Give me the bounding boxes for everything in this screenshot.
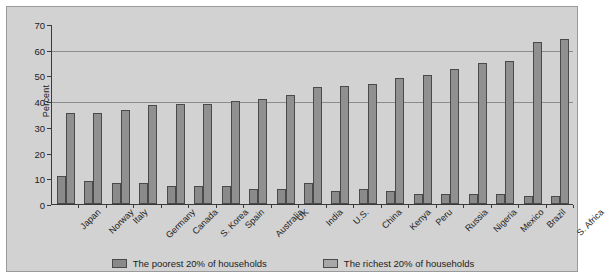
bar-richest[interactable] — [176, 104, 185, 204]
chart-legend: The poorest 20% of households The riches… — [7, 255, 579, 271]
bar-poorest[interactable] — [194, 186, 203, 204]
bar-group[interactable] — [276, 25, 294, 204]
x-label-italy: Italy — [131, 207, 150, 226]
bar-group[interactable] — [221, 25, 239, 204]
bar-richest[interactable] — [340, 86, 349, 204]
y-tick-label: 10 — [34, 174, 45, 185]
y-tick-mark — [47, 205, 51, 206]
x-label-norway: Norway — [107, 207, 136, 236]
bar-poorest[interactable] — [331, 191, 340, 204]
y-tick-label: 30 — [34, 122, 45, 133]
bar-poorest[interactable] — [551, 196, 560, 204]
plot-area: 010203040506070 — [51, 25, 573, 205]
x-label-brazil: Brazil — [544, 207, 567, 230]
legend-item-poorest: The poorest 20% of households — [112, 258, 267, 269]
bar-group[interactable] — [56, 25, 74, 204]
bar-poorest[interactable] — [414, 194, 423, 204]
legend-label-richest: The richest 20% of households — [344, 258, 474, 269]
bar-poorest[interactable] — [496, 194, 505, 204]
bar-richest[interactable] — [93, 113, 102, 204]
bar-poorest[interactable] — [139, 183, 148, 204]
bar-richest[interactable] — [533, 42, 542, 204]
bar-richest[interactable] — [121, 110, 130, 204]
bar-group[interactable] — [523, 25, 541, 204]
bar-poorest[interactable] — [167, 186, 176, 204]
y-tick-label: 0 — [40, 200, 45, 211]
bar-group[interactable] — [385, 25, 403, 204]
bar-richest[interactable] — [505, 61, 514, 204]
bar-group[interactable] — [358, 25, 376, 204]
x-label-peru: Peru — [434, 207, 455, 228]
bar-group[interactable] — [330, 25, 348, 204]
bar-group[interactable] — [248, 25, 266, 204]
x-tick-mark — [573, 205, 574, 208]
bar-poorest[interactable] — [359, 189, 368, 204]
legend-item-richest: The richest 20% of households — [323, 258, 474, 269]
y-tick-label: 60 — [34, 45, 45, 56]
x-label-mexico: Mexico — [519, 207, 546, 234]
bar-richest[interactable] — [478, 63, 487, 204]
x-label-s-africa: S. Africa — [575, 207, 606, 238]
x-axis-line — [51, 204, 573, 205]
x-label-nigeria: Nigeria — [491, 207, 518, 234]
bar-group[interactable] — [468, 25, 486, 204]
y-tick-label: 50 — [34, 71, 45, 82]
x-label-china: China — [380, 207, 404, 231]
bar-richest[interactable] — [368, 84, 377, 204]
bar-poorest[interactable] — [277, 189, 286, 204]
bar-richest[interactable] — [203, 104, 212, 204]
bar-group[interactable] — [138, 25, 156, 204]
bar-poorest[interactable] — [304, 183, 313, 204]
poorest-swatch-icon — [112, 259, 127, 268]
legend-label-poorest: The poorest 20% of households — [133, 258, 267, 269]
y-tick-label: 40 — [34, 97, 45, 108]
bar-poorest[interactable] — [84, 181, 93, 204]
bar-group[interactable] — [166, 25, 184, 204]
bar-richest[interactable] — [258, 99, 267, 204]
bar-poorest[interactable] — [57, 176, 66, 204]
bar-group[interactable] — [550, 25, 568, 204]
bar-richest[interactable] — [560, 39, 569, 204]
bar-poorest[interactable] — [112, 183, 121, 204]
bar-poorest[interactable] — [524, 196, 533, 204]
bar-poorest[interactable] — [249, 189, 258, 204]
bar-poorest[interactable] — [441, 194, 450, 204]
bars-layer — [51, 25, 573, 205]
bar-richest[interactable] — [286, 95, 295, 204]
x-label-u-s: U.S. — [351, 207, 370, 226]
bar-poorest[interactable] — [222, 186, 231, 204]
bar-richest[interactable] — [395, 78, 404, 204]
bar-poorest[interactable] — [386, 191, 395, 204]
bar-richest[interactable] — [66, 113, 75, 204]
bar-poorest[interactable] — [469, 194, 478, 204]
bar-group[interactable] — [83, 25, 101, 204]
bar-group[interactable] — [413, 25, 431, 204]
x-label-japan: Japan — [78, 207, 102, 231]
bar-group[interactable] — [495, 25, 513, 204]
y-axis-line — [51, 25, 52, 205]
x-label-india: India — [324, 207, 345, 228]
bar-richest[interactable] — [313, 87, 322, 204]
richest-swatch-icon — [323, 259, 338, 268]
bar-group[interactable] — [440, 25, 458, 204]
bar-group[interactable] — [193, 25, 211, 204]
x-label-kenya: Kenya — [408, 207, 433, 232]
bar-richest[interactable] — [423, 75, 432, 204]
bar-group[interactable] — [111, 25, 129, 204]
x-axis-category-labels: JapanNorwayItalyGermanyCanadaS. KoreaSpa… — [51, 207, 573, 253]
y-tick-label: 20 — [34, 148, 45, 159]
y-tick-label: 70 — [34, 20, 45, 31]
chart-container: Percent 010203040506070 JapanNorwayItaly… — [6, 6, 578, 272]
bar-richest[interactable] — [450, 69, 459, 204]
bar-richest[interactable] — [148, 105, 157, 204]
bar-group[interactable] — [303, 25, 321, 204]
x-label-germany: Germany — [164, 207, 197, 240]
bar-richest[interactable] — [231, 101, 240, 204]
x-label-russia: Russia — [463, 207, 490, 234]
